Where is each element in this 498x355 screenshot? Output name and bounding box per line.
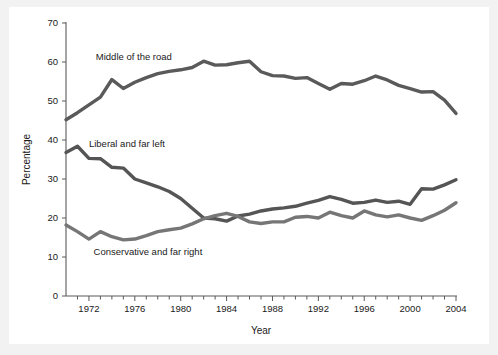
x-tick-label: 1996 — [354, 303, 375, 314]
y-tick-label: 40 — [47, 134, 58, 145]
y-axis-title: Percentage — [21, 133, 32, 185]
x-tick-label: 1976 — [124, 303, 145, 314]
y-tick-label: 0 — [53, 290, 58, 301]
x-tick-label: 1984 — [216, 303, 237, 314]
series-line-0 — [66, 61, 456, 120]
x-axis-title: Year — [251, 325, 272, 336]
line-chart: 0102030405060701972197619801984198819921… — [0, 0, 498, 355]
x-tick-label: 1988 — [262, 303, 283, 314]
x-tick-label: 2000 — [400, 303, 421, 314]
x-tick-label: 2004 — [445, 303, 466, 314]
y-tick-label: 30 — [47, 173, 58, 184]
x-tick-label: 1992 — [308, 303, 329, 314]
series-line-1 — [66, 146, 456, 221]
series-label-1: Liberal and far left — [89, 138, 165, 149]
y-tick-label: 60 — [47, 56, 58, 67]
x-tick-label: 1980 — [170, 303, 191, 314]
series-label-0: Middle of the road — [96, 51, 172, 62]
y-tick-label: 20 — [47, 212, 58, 223]
series-label-2: Conservative and far right — [94, 246, 203, 257]
y-tick-label: 10 — [47, 251, 58, 262]
x-tick-label: 1972 — [78, 303, 99, 314]
y-tick-label: 70 — [47, 17, 58, 28]
y-tick-label: 50 — [47, 95, 58, 106]
chart-figure: 0102030405060701972197619801984198819921… — [0, 0, 498, 355]
series-line-2 — [66, 203, 456, 240]
